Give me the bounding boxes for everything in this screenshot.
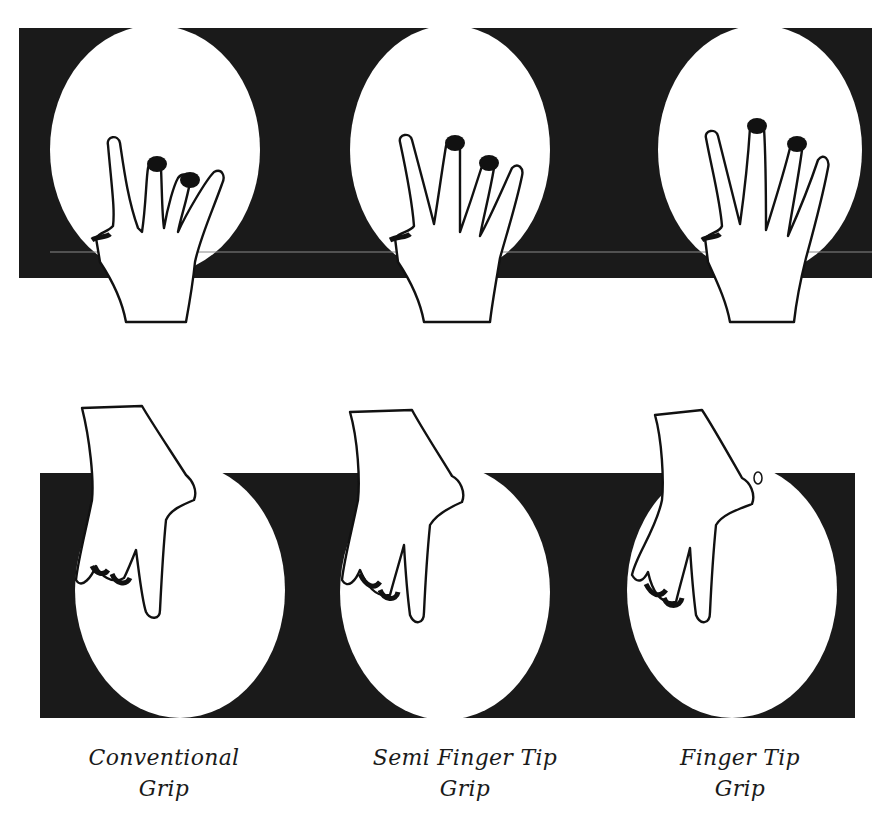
grip-illustrations	[0, 0, 886, 824]
caption-line-1: Finger Tip	[620, 742, 860, 773]
caption-line-2: Grip	[620, 773, 860, 804]
caption-line-2: Grip	[345, 773, 585, 804]
caption-conventional-grip: Conventional Grip	[44, 742, 284, 804]
caption-line-1: Conventional	[44, 742, 284, 773]
caption-semi-finger-tip-grip: Semi Finger Tip Grip	[345, 742, 585, 804]
caption-finger-tip-grip: Finger Tip Grip	[620, 742, 860, 804]
caption-line-2: Grip	[44, 773, 284, 804]
caption-line-1: Semi Finger Tip	[345, 742, 585, 773]
